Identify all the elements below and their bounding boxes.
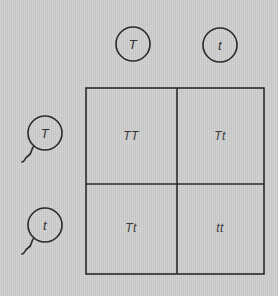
sperm-label-2: t: [43, 218, 47, 233]
egg-label-2: t: [218, 38, 222, 53]
punnett-grid: [86, 88, 264, 274]
cell-Tt-bottom: Tt: [125, 221, 137, 235]
cell-Tt-top: Tt: [214, 129, 226, 143]
punnett-square-diagram: T t T t TT Tt Tt tt: [0, 0, 278, 296]
diagram-graphics: [0, 0, 278, 296]
egg-label-1: T: [129, 37, 137, 52]
sperm-label-1: T: [41, 126, 49, 141]
cell-TT: TT: [123, 129, 139, 143]
cell-tt: tt: [216, 221, 224, 235]
